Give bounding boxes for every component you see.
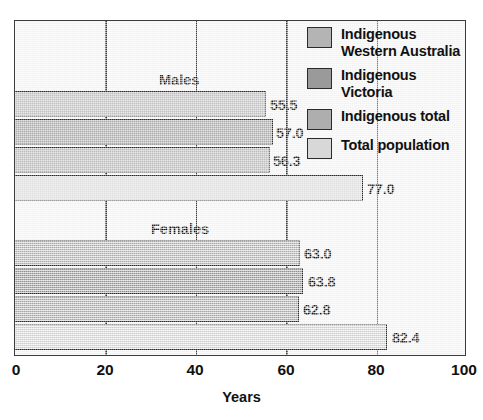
bar-females-indigenous-victoria[interactable] [15, 268, 303, 294]
bar-value-males-total-population: 77.0 [367, 181, 394, 197]
group-label-males: Males [159, 72, 199, 88]
legend-swatch-total-population [307, 138, 332, 159]
x-tick-0: 0 [12, 361, 21, 379]
legend-label-indigenous-victoria: IndigenousVictoria [341, 67, 416, 101]
legend-label-indigenous-wa: IndigenousWestern Australia [341, 26, 460, 60]
group-label-females: Females [151, 221, 209, 237]
legend-swatch-indigenous-total [307, 109, 332, 130]
legend-label-indigenous-victoria-line1: Indigenous [341, 67, 416, 83]
legend-label-indigenous-wa-line2: Western Australia [341, 43, 460, 59]
bar-value-females-indigenous-wa: 63.0 [304, 246, 331, 262]
legend-swatch-indigenous-victoria [307, 68, 332, 89]
legend-label-indigenous-wa-line1: Indigenous [341, 26, 416, 42]
x-axis-title: Years [0, 389, 483, 405]
legend-item-indigenous-wa[interactable]: IndigenousWestern Australia [307, 26, 466, 60]
legend-item-indigenous-total[interactable]: Indigenous total [307, 108, 466, 130]
x-tick-100: 100 [451, 361, 477, 379]
bar-females-indigenous-wa[interactable] [15, 240, 300, 266]
legend-label-total-population: Total population [341, 137, 449, 154]
legend-item-indigenous-victoria[interactable]: IndigenousVictoria [307, 67, 466, 101]
x-tick-60: 60 [277, 361, 294, 379]
bar-females-total-population[interactable] [15, 324, 387, 350]
legend: IndigenousWestern Australia IndigenousVi… [307, 26, 466, 166]
legend-label-indigenous-victoria-line2: Victoria [341, 84, 392, 100]
x-tick-40: 40 [186, 361, 203, 379]
plot-area: Males 55.5 57.0 56.3 77.0 Females 63.0 6… [14, 20, 466, 356]
bar-males-indigenous-total[interactable] [15, 147, 270, 173]
bar-females-indigenous-total[interactable] [15, 296, 299, 322]
bar-chart: Males 55.5 57.0 56.3 77.0 Females 63.0 6… [0, 0, 483, 420]
bar-value-females-indigenous-victoria: 63.8 [308, 274, 335, 290]
bar-males-total-population[interactable] [15, 175, 363, 201]
legend-item-total-population[interactable]: Total population [307, 137, 466, 159]
x-tick-80: 80 [367, 361, 384, 379]
bar-value-females-indigenous-total: 62.8 [303, 302, 330, 318]
x-tick-20: 20 [96, 361, 113, 379]
bar-value-males-indigenous-victoria: 57.0 [276, 125, 303, 141]
legend-swatch-indigenous-wa [307, 27, 332, 48]
bar-males-indigenous-wa[interactable] [15, 91, 266, 117]
bar-value-females-total-population: 82.4 [392, 330, 419, 346]
bar-males-indigenous-victoria[interactable] [15, 119, 273, 145]
legend-label-indigenous-total: Indigenous total [341, 108, 450, 125]
bar-value-males-indigenous-total: 56.3 [273, 153, 300, 169]
bar-value-males-indigenous-wa: 55.5 [270, 97, 297, 113]
